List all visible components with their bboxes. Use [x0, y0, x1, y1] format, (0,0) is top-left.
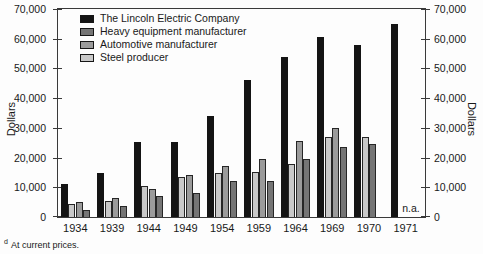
- bar-steel-producer: [178, 177, 185, 217]
- y-tick-right: [421, 39, 430, 40]
- legend-label: Steel producer: [100, 52, 168, 64]
- bar-heavy-equipment-manufacturer: [156, 196, 163, 217]
- legend-item-the-lincoln-electric-company: The Lincoln Electric Company: [80, 13, 247, 25]
- bar-steel-producer: [252, 172, 259, 217]
- bar-steel-producer: [68, 204, 75, 217]
- y-tick-label: 20,000: [434, 152, 466, 165]
- footnote-marker: d: [4, 238, 8, 245]
- y-tick-label: 10,000: [434, 181, 466, 194]
- y-axis-labels-left: 010,00020,00030,00040,00050,00060,00070,…: [0, 8, 51, 218]
- legend-swatch-icon: [80, 54, 94, 62]
- legend-swatch-icon: [80, 28, 94, 36]
- bar-the-lincoln-electric-company: [281, 57, 288, 217]
- x-tick-label: 1939: [94, 222, 131, 234]
- bar-automotive-manufacturer: [186, 175, 193, 217]
- figure: Dollars Dollars 010,00020,00030,00040,00…: [0, 0, 483, 254]
- y-tick-right: [421, 68, 430, 69]
- bar-the-lincoln-electric-company: [317, 37, 324, 217]
- bar-the-lincoln-electric-company: [391, 24, 398, 217]
- bar-automotive-manufacturer: [296, 141, 303, 217]
- plot-area: The Lincoln Electric CompanyHeavy equipm…: [57, 8, 426, 218]
- legend: The Lincoln Electric CompanyHeavy equipm…: [80, 13, 247, 65]
- y-tick-label: 30,000: [434, 122, 466, 135]
- footnote-text: At current prices.: [11, 240, 79, 250]
- y-tick-label: 60,000: [14, 33, 46, 46]
- y-tick-right: [421, 98, 430, 99]
- bar-automotive-manufacturer: [332, 128, 339, 217]
- legend-item-steel-producer: Steel producer: [80, 52, 247, 64]
- legend-swatch-icon: [80, 15, 94, 23]
- bar-steel-producer: [288, 164, 295, 217]
- y-tick-label: 10,000: [14, 181, 46, 194]
- x-tick-label: 1954: [204, 222, 241, 234]
- bar-steel-producer: [325, 137, 332, 217]
- bar-heavy-equipment-manufacturer: [340, 147, 347, 217]
- bar-heavy-equipment-manufacturer: [267, 181, 274, 217]
- legend-label: The Lincoln Electric Company: [100, 13, 239, 25]
- bar-automotive-manufacturer: [149, 189, 156, 217]
- bar-the-lincoln-electric-company: [207, 116, 214, 217]
- x-tick-label: 1934: [57, 222, 94, 234]
- x-tick-label: 1949: [167, 222, 204, 234]
- na-label: n.a.: [402, 202, 420, 214]
- y-tick-right: [421, 216, 430, 217]
- x-tick-label: 1970: [351, 222, 388, 234]
- x-axis-labels: 1934193919441949195419591964196919701971: [57, 222, 426, 236]
- bar-the-lincoln-electric-company: [134, 142, 141, 217]
- legend-item-automotive-manufacturer: Automotive manufacturer: [80, 39, 247, 51]
- bar-automotive-manufacturer: [112, 198, 119, 217]
- y-tick-left: [53, 158, 62, 159]
- legend-item-heavy-equipment-manufacturer: Heavy equipment manufacturer: [80, 26, 247, 38]
- y-tick-label: 60,000: [434, 33, 466, 46]
- x-tick-label: 1971: [387, 222, 424, 234]
- y-axis-labels-right: 010,00020,00030,00040,00050,00060,00070,…: [432, 8, 483, 218]
- x-tick-label: 1944: [130, 222, 167, 234]
- x-tick-label: 1969: [314, 222, 351, 234]
- y-tick-label: 40,000: [434, 92, 466, 105]
- bar-steel-producer: [362, 137, 369, 217]
- bar-steel-producer: [215, 173, 222, 217]
- bar-heavy-equipment-manufacturer: [230, 181, 237, 217]
- bar-automotive-manufacturer: [259, 159, 266, 217]
- footnote: dAt current prices.: [4, 238, 79, 250]
- bar-heavy-equipment-manufacturer: [83, 210, 90, 217]
- x-tick-label: 1964: [277, 222, 314, 234]
- y-tick-label: 40,000: [14, 92, 46, 105]
- bar-the-lincoln-electric-company: [171, 142, 178, 217]
- bar-the-lincoln-electric-company: [97, 173, 104, 217]
- bar-heavy-equipment-manufacturer: [369, 144, 376, 217]
- legend-swatch-icon: [80, 41, 94, 49]
- y-tick-left: [53, 128, 62, 129]
- y-tick-right: [421, 158, 430, 159]
- y-tick-left: [53, 9, 62, 10]
- y-tick-right: [421, 128, 430, 129]
- y-tick-label: 20,000: [14, 152, 46, 165]
- y-tick-right: [421, 187, 430, 188]
- bar-the-lincoln-electric-company: [354, 45, 361, 217]
- bar-heavy-equipment-manufacturer: [193, 193, 200, 217]
- y-tick-left: [53, 68, 62, 69]
- bar-the-lincoln-electric-company: [244, 80, 251, 217]
- legend-label: Heavy equipment manufacturer: [100, 26, 247, 38]
- bar-heavy-equipment-manufacturer: [303, 159, 310, 217]
- y-tick-right: [421, 9, 430, 10]
- y-tick-label: 0: [40, 211, 46, 224]
- bar-steel-producer: [105, 201, 112, 217]
- x-tick-label: 1959: [241, 222, 278, 234]
- y-tick-label: 70,000: [434, 3, 466, 16]
- legend-label: Automotive manufacturer: [100, 39, 217, 51]
- bar-automotive-manufacturer: [76, 202, 83, 217]
- bar-steel-producer: [141, 186, 148, 217]
- y-tick-label: 30,000: [14, 122, 46, 135]
- bar-automotive-manufacturer: [222, 166, 229, 217]
- y-tick-label: 0: [434, 211, 440, 224]
- y-tick-label: 70,000: [14, 3, 46, 16]
- bar-heavy-equipment-manufacturer: [120, 206, 127, 217]
- y-tick-label: 50,000: [14, 62, 46, 75]
- bar-the-lincoln-electric-company: [61, 184, 68, 217]
- y-tick-label: 50,000: [434, 62, 466, 75]
- y-tick-left: [53, 39, 62, 40]
- y-tick-left: [53, 98, 62, 99]
